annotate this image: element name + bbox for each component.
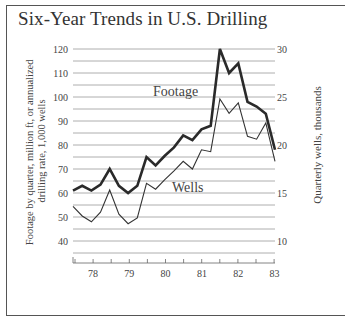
left-y-axis-title: Footage by quarter, million ft, or annua…: [24, 57, 47, 245]
footage-series-label: Footage: [153, 84, 198, 99]
left-y-tick-label: 110: [53, 68, 68, 79]
left-y-tick-label: 80: [58, 140, 68, 151]
x-tick-label: 81: [197, 268, 207, 279]
left-y-tick-label: 90: [58, 116, 68, 127]
right-y-tick-label: 15: [277, 188, 287, 199]
line-chart: 405060708090100110120 1015202530 7879808…: [0, 0, 345, 326]
wells-series-label: Wells: [172, 180, 204, 195]
right-y-axis-title: Quarterly wells, thousands: [311, 86, 323, 204]
gridlines: [73, 49, 275, 253]
right-y-tick-label: 10: [277, 236, 287, 247]
left-y-axis-ticks: 405060708090100110120: [53, 44, 68, 247]
x-axis: 787980818283: [73, 257, 280, 279]
x-tick-label: 82: [233, 268, 243, 279]
right-y-tick-label: 25: [277, 92, 287, 103]
x-tick-label: 80: [161, 268, 171, 279]
x-tick-label: 79: [124, 268, 134, 279]
left-y-tick-label: 40: [58, 236, 68, 247]
right-y-tick-label: 30: [277, 44, 287, 55]
left-y-tick-label: 120: [53, 44, 68, 55]
right-y-axis-ticks: 1015202530: [277, 44, 287, 247]
left-y-tick-label: 60: [58, 188, 68, 199]
left-y-tick-label: 100: [53, 92, 68, 103]
left-y-tick-label: 50: [58, 212, 68, 223]
x-tick-label: 78: [88, 268, 98, 279]
left-y-tick-label: 70: [58, 164, 68, 175]
x-tick-label: 83: [270, 268, 280, 279]
right-y-tick-label: 20: [277, 140, 287, 151]
